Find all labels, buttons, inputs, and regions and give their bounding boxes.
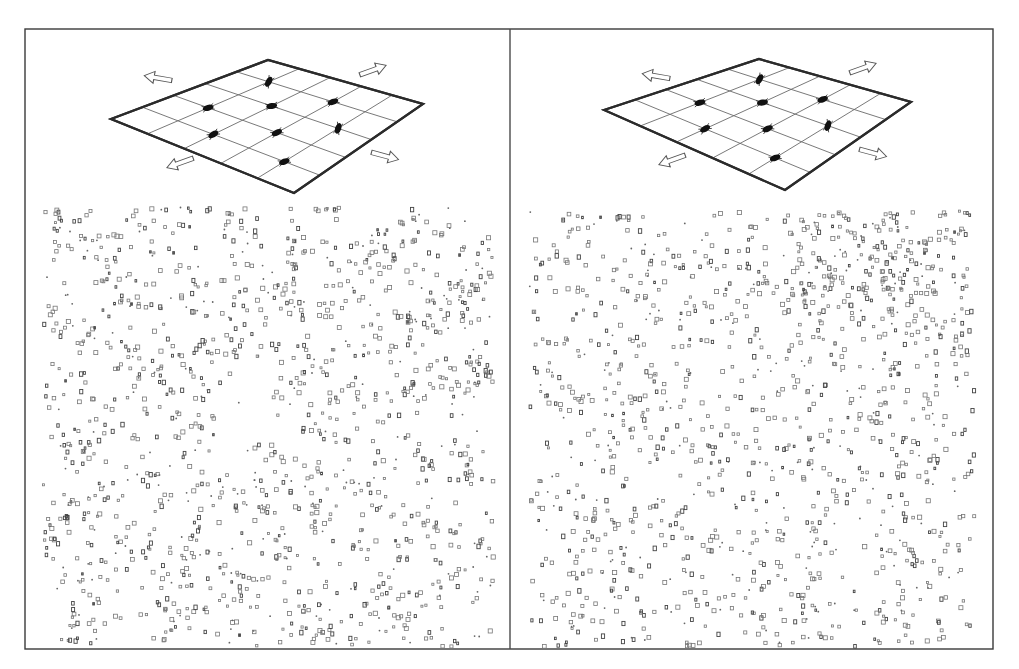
particle: [192, 278, 195, 282]
particle: [186, 616, 190, 620]
particle: [261, 286, 265, 290]
particle: [259, 308, 263, 312]
particle: [185, 566, 189, 570]
particle: [393, 310, 397, 314]
particle: [195, 246, 198, 249]
particle: [193, 351, 195, 354]
particle: [82, 579, 85, 582]
particle: [287, 237, 289, 240]
particle: [688, 344, 691, 347]
particle: [439, 561, 442, 565]
particle: [331, 359, 334, 362]
particle: [476, 263, 479, 266]
particle: [946, 228, 949, 231]
particle: [837, 306, 840, 309]
particle: [376, 596, 379, 599]
particle: [71, 461, 74, 465]
particle: [734, 504, 736, 506]
particle: [407, 314, 410, 318]
particle: [102, 309, 104, 311]
particle: [877, 249, 879, 251]
particle: [635, 355, 638, 358]
particle: [454, 444, 456, 446]
particle: [315, 511, 319, 515]
particle: [576, 577, 578, 580]
particle: [626, 587, 629, 591]
particle: [912, 516, 915, 519]
particle: [115, 261, 117, 263]
particle: [710, 426, 713, 429]
particle: [47, 305, 50, 308]
particle: [310, 475, 313, 478]
particle: [433, 231, 437, 235]
particle: [376, 508, 379, 512]
particle: [808, 360, 811, 363]
particle: [464, 392, 466, 394]
particle: [707, 415, 710, 418]
particle: [718, 211, 722, 215]
particle: [486, 364, 489, 368]
particle: [942, 635, 946, 639]
particle: [421, 467, 424, 471]
particle: [275, 390, 279, 394]
particle: [63, 444, 66, 448]
particle: [154, 372, 156, 374]
particle: [425, 637, 428, 640]
particle: [747, 265, 750, 270]
particle: [613, 570, 617, 574]
particle: [960, 355, 963, 358]
particle: [487, 271, 491, 275]
particle: [59, 517, 62, 520]
particle: [373, 611, 377, 615]
particle: [348, 344, 350, 346]
particle: [612, 414, 614, 416]
particle: [197, 286, 199, 288]
particle: [679, 445, 681, 447]
particle: [432, 387, 435, 390]
particle: [94, 281, 98, 285]
particle: [693, 493, 695, 495]
particle: [932, 559, 935, 562]
particle: [744, 597, 747, 600]
particle: [355, 376, 357, 379]
particle: [166, 337, 169, 341]
particle: [46, 276, 48, 278]
particle: [358, 483, 360, 485]
particle: [111, 429, 114, 433]
particle: [944, 447, 948, 451]
particle: [50, 526, 54, 530]
particle: [846, 493, 848, 496]
particle: [835, 549, 837, 551]
particle: [284, 599, 287, 602]
particle: [883, 359, 885, 361]
particle: [146, 484, 149, 488]
particle: [449, 529, 452, 533]
particle: [961, 308, 963, 310]
particle: [766, 531, 768, 533]
particle: [903, 542, 907, 546]
particle: [798, 460, 801, 463]
particle: [899, 539, 901, 541]
particle: [736, 578, 740, 582]
particle: [578, 589, 581, 594]
particle: [104, 405, 107, 408]
particle: [807, 586, 810, 589]
particle: [898, 465, 901, 468]
particle: [940, 629, 943, 632]
particle: [335, 643, 337, 645]
particle: [682, 266, 684, 269]
particle: [952, 319, 955, 322]
particle: [225, 334, 229, 338]
particle: [317, 461, 321, 465]
particle: [93, 431, 95, 433]
particle: [488, 629, 492, 633]
particle: [323, 585, 327, 589]
particle: [121, 495, 123, 497]
particle: [464, 327, 466, 329]
particle: [939, 214, 942, 217]
particle: [790, 344, 794, 348]
particle: [253, 519, 257, 523]
particle: [781, 539, 784, 542]
particle: [272, 396, 275, 399]
particle: [340, 389, 343, 392]
